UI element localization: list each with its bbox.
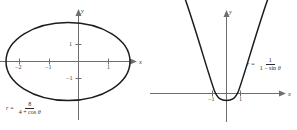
- equation-lhs: r: [6, 105, 8, 111]
- ellipse-polar-plot: −2 −1 1 1 −1 x y r = 8 4 + cos θ: [0, 0, 148, 130]
- y-axis-label: y: [81, 8, 84, 15]
- polar-curves-figure: −2 −1 1 1 −1 x y r = 8 4 + cos θ: [0, 0, 297, 130]
- equation-label-ellipse: r = 8 4 + cos θ: [6, 101, 44, 115]
- x-tick-label-neg2: −2: [15, 64, 21, 70]
- equation-denominator: 1 − sin θ: [257, 65, 284, 72]
- x-axis-label: x: [288, 91, 291, 98]
- equation-fraction: 1 1 − sin θ: [257, 57, 284, 71]
- x-tick-label-neg1: −1: [208, 96, 214, 102]
- x-axis-arrow-icon: [130, 59, 137, 65]
- x-axis-label: x: [139, 59, 142, 66]
- equation-denominator-prefix: 1 − sin: [260, 65, 278, 71]
- y-tick-label-pos1: 1: [69, 41, 72, 47]
- x-tick-label-pos1: 1: [107, 64, 110, 70]
- equation-equals: =: [10, 105, 13, 111]
- equation-denominator-symbol: θ: [38, 109, 41, 115]
- y-axis-label: y: [229, 9, 232, 16]
- x-axis-arrow-icon: [279, 91, 286, 97]
- equation-label-parabola: r = 1 1 − sin θ: [247, 57, 284, 71]
- equation-denominator-prefix: 4 + cos: [19, 109, 38, 115]
- equation-denominator: 4 + cos θ: [16, 109, 44, 116]
- equation-numerator: 8: [25, 101, 34, 109]
- equation-equals: =: [251, 61, 254, 67]
- parabola-polar-plot: −1 1 x y r = 1 1 − sin θ: [148, 0, 297, 130]
- y-tick-label-neg1: −1: [66, 75, 72, 81]
- equation-lhs: r: [247, 61, 249, 67]
- x-tick-label-pos1: 1: [239, 96, 242, 102]
- equation-numerator: 1: [266, 57, 275, 65]
- equation-fraction: 8 4 + cos θ: [16, 101, 44, 115]
- equation-denominator-symbol: θ: [278, 65, 281, 71]
- x-tick-label-neg1: −1: [45, 64, 51, 70]
